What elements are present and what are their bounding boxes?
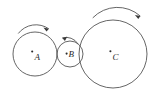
diagram-canvas: A B C [0,0,163,100]
circle-a-label: A [33,52,40,62]
circle-c-label: C [113,52,120,62]
circle-group-a: A [13,25,57,76]
circle-b-label: B [69,49,75,59]
circle-c-center-dot [109,50,111,52]
circle-group-c: C [79,7,147,88]
rotation-arrow-c-arc [93,7,140,17]
circle-a-center-dot [31,50,33,52]
circle-b-center-dot [66,53,68,55]
rotation-arrow-c [93,7,140,19]
three-circles-diagram: A B C [0,0,163,100]
